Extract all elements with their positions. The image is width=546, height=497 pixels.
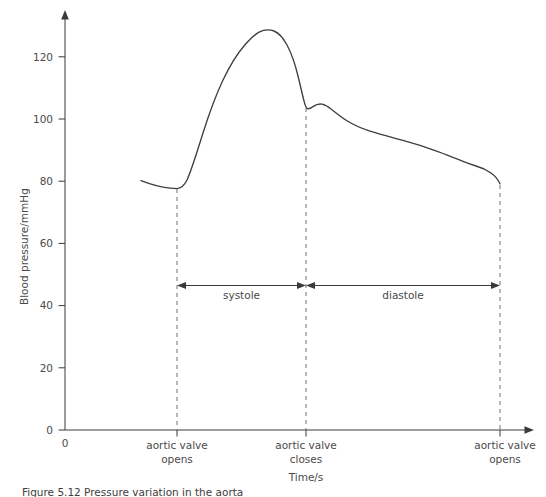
y-tick-label-0: 0: [46, 424, 53, 436]
diastole-arrowhead-left: [306, 282, 315, 289]
event-label-aortic-valve-closes-line1: aortic valve: [275, 439, 337, 451]
blood-pressure-curve: [141, 30, 500, 189]
y-axis-tick-labels: 0 20 40 60 80 100 120: [33, 51, 53, 436]
y-axis-title: Blood pressure/mmHg: [18, 188, 30, 305]
y-tick-label-20: 20: [40, 362, 53, 374]
figure-caption: Figure 5.12 Pressure variation in the ao…: [22, 486, 243, 497]
y-tick-label-40: 40: [40, 299, 53, 311]
y-axis-ticks: [59, 57, 66, 430]
systole-annotation: systole: [177, 282, 306, 301]
event-label-aortic-valve-opens-2-line2: opens: [489, 453, 521, 465]
x-axis-arrowhead: [525, 426, 535, 434]
systole-arrowhead-left: [177, 282, 186, 289]
event-label-aortic-valve-opens-1-line1: aortic valve: [146, 439, 208, 451]
x-axis: [65, 426, 534, 434]
diastole-annotation: diastole: [306, 282, 500, 301]
x-axis-event-labels: aortic valve opens aortic valve closes a…: [146, 439, 536, 465]
event-label-aortic-valve-closes-line2: closes: [290, 453, 323, 465]
diastole-label: diastole: [382, 289, 423, 301]
event-label-aortic-valve-opens-2-line1: aortic valve: [474, 439, 536, 451]
x-axis-title: Time/s: [288, 471, 324, 483]
y-axis-arrowhead: [61, 10, 69, 20]
systole-arrowhead-right: [297, 282, 306, 289]
y-tick-label-80: 80: [40, 175, 53, 187]
y-axis: [61, 10, 69, 430]
x-axis-ticks: [177, 430, 500, 437]
blood-pressure-chart: 0 20 40 60 80 100 120 Blood pressure/mmH…: [0, 0, 546, 497]
blood-pressure-figure: 0 20 40 60 80 100 120 Blood pressure/mmH…: [0, 0, 546, 497]
y-tick-label-60: 60: [40, 237, 53, 249]
systole-label: systole: [223, 289, 260, 301]
y-tick-label-120: 120: [33, 51, 53, 63]
y-tick-label-100: 100: [33, 113, 53, 125]
event-label-aortic-valve-opens-1-line2: opens: [161, 453, 193, 465]
diastole-arrowhead-right: [491, 282, 500, 289]
x-origin-label: 0: [62, 437, 69, 449]
